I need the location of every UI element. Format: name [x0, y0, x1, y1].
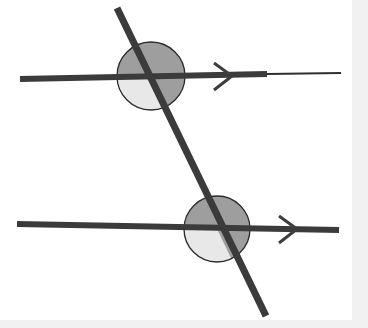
figure-plate: [0, 0, 352, 320]
upper-parallel-line-tail: [267, 73, 341, 74]
geometry-figure: [0, 0, 368, 328]
figure-canvas: [0, 0, 368, 328]
